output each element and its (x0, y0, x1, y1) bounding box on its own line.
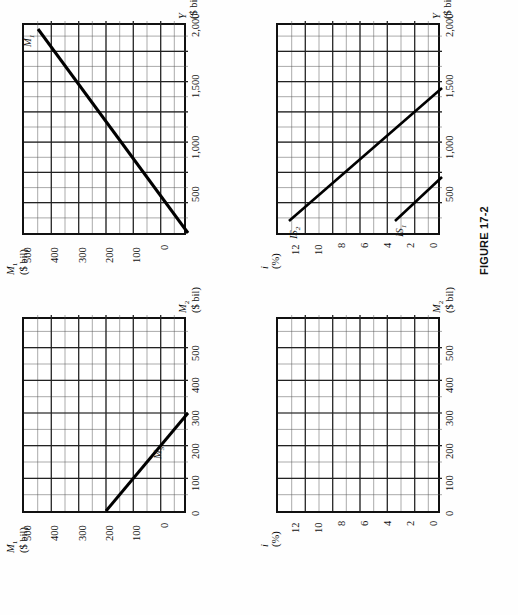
panel-m1-gridlines (24, 21, 188, 233)
panel-is-xtick-1000: 1,000 (444, 135, 455, 159)
panel-lm-xtick-200: 200 (444, 443, 455, 459)
panel-ms: MS 500 400 300 200 100 0 M1($ bil) 0 100… (18, 305, 200, 553)
panel-lm-ytick-4: 4 (382, 521, 393, 526)
panel-lm-xtick-300: 300 (444, 410, 455, 426)
panel-is-ytick-10: 10 (313, 245, 324, 256)
panel-is-gridlines (278, 21, 442, 233)
panel-m1-ytick-100: 100 (131, 247, 142, 263)
panel-m1-xlabel: Y($ bil) (178, 0, 199, 19)
panel-lm-ytick-12: 12 (290, 523, 301, 534)
panel-is-ytick-4: 4 (382, 243, 393, 248)
panel-lm-ytick-6: 6 (359, 521, 370, 526)
panel-ms-ytick-300: 300 (77, 525, 88, 541)
panel-ms-ytick-400: 400 (49, 525, 60, 541)
panel-lm-ylabel: i(%) (260, 531, 281, 547)
panel-ms-xtick-300: 300 (190, 410, 201, 426)
panel-ms-plot: MS (22, 317, 186, 513)
panel-lm-blank: 12 10 8 6 4 2 0 i(%) 0 100 200 300 400 5… (272, 305, 454, 553)
panel-lm-ytick-10: 10 (313, 523, 324, 534)
panel-ms-ylabel: M1($ bil) (6, 527, 30, 553)
panel-m1-xtick-500: 500 (190, 186, 201, 202)
panel-m1-ytick-0: 0 (159, 245, 170, 250)
panel-m1: M1 500 400 300 200 100 0 M1($ bil) 500 1… (18, 17, 200, 275)
is2-curve (289, 88, 442, 221)
panel-is-ytick-2: 2 (405, 243, 416, 248)
panel-is-plot: IS2 IS1 (276, 23, 440, 235)
panel-lm-xlabel: M2($ bil) (432, 287, 456, 313)
figure-17-2: MS 500 400 300 200 100 0 M1($ bil) 0 100… (0, 0, 518, 615)
panel-is: IS2 IS1 12 10 8 6 4 2 0 i(%) 500 1,000 1… (272, 17, 454, 275)
panel-ms-xtick-100: 100 (190, 475, 201, 491)
figure-caption: FIGURE 17-2 (478, 206, 490, 275)
panel-is-ytick-12: 12 (290, 245, 301, 256)
panel-is-ytick-0: 0 (428, 243, 439, 248)
panel-m1-xtick-1500: 1,500 (190, 74, 201, 98)
panel-lm-xtick-100: 100 (444, 475, 455, 491)
panel-ms-ytick-100: 100 (131, 525, 142, 541)
curve-label-ms: MS (152, 447, 166, 459)
panel-lm-blank-plot (276, 317, 440, 513)
panel-ms-xtick-500: 500 (190, 345, 201, 361)
panel-ms-ytick-0: 0 (159, 523, 170, 528)
is1-curve (395, 177, 442, 221)
panel-ms-xtick-400: 400 (190, 377, 201, 393)
panel-m1-ytick-300: 300 (77, 247, 88, 263)
panel-lm-ytick-2: 2 (405, 521, 416, 526)
panel-lm-ytick-0: 0 (428, 521, 439, 526)
panel-is-ytick-8: 8 (336, 243, 347, 248)
curve-label-is2: IS2 (288, 227, 302, 239)
figure-rotation-wrapper: MS 500 400 300 200 100 0 M1($ bil) 0 100… (0, 0, 518, 615)
panel-m1-ytick-200: 200 (104, 247, 115, 263)
panel-ms-xlabel: M2($ bil) (178, 287, 202, 313)
panel-is-xlabel: Y($ bil) (432, 0, 453, 19)
panel-is-xtick-500: 500 (444, 186, 455, 202)
panel-m1-ytick-400: 400 (49, 247, 60, 263)
panel-m1-ylabel: M1($ bil) (6, 249, 30, 275)
panel-is-ytick-6: 6 (359, 243, 370, 248)
panel-ms-ytick-200: 200 (104, 525, 115, 541)
panel-lm-ytick-8: 8 (336, 521, 347, 526)
panel-is-xtick-1500: 1,500 (444, 74, 455, 98)
panel-ms-xtick-200: 200 (190, 443, 201, 459)
panel-m1-xtick-1000: 1,000 (190, 135, 201, 159)
curve-label-m1: M1 (22, 35, 36, 47)
panel-lm-blank-gridlines (278, 315, 442, 511)
panel-m1-plot: M1 (22, 23, 186, 235)
panel-lm-xtick-0: 0 (444, 511, 455, 516)
curve-label-is1: IS1 (394, 225, 408, 237)
panel-ms-xtick-0: 0 (190, 511, 201, 516)
panel-ms-gridlines (24, 315, 188, 511)
panel-lm-xtick-400: 400 (444, 377, 455, 393)
panel-is-ylabel: i(%) (260, 253, 281, 269)
panel-lm-xtick-500: 500 (444, 345, 455, 361)
